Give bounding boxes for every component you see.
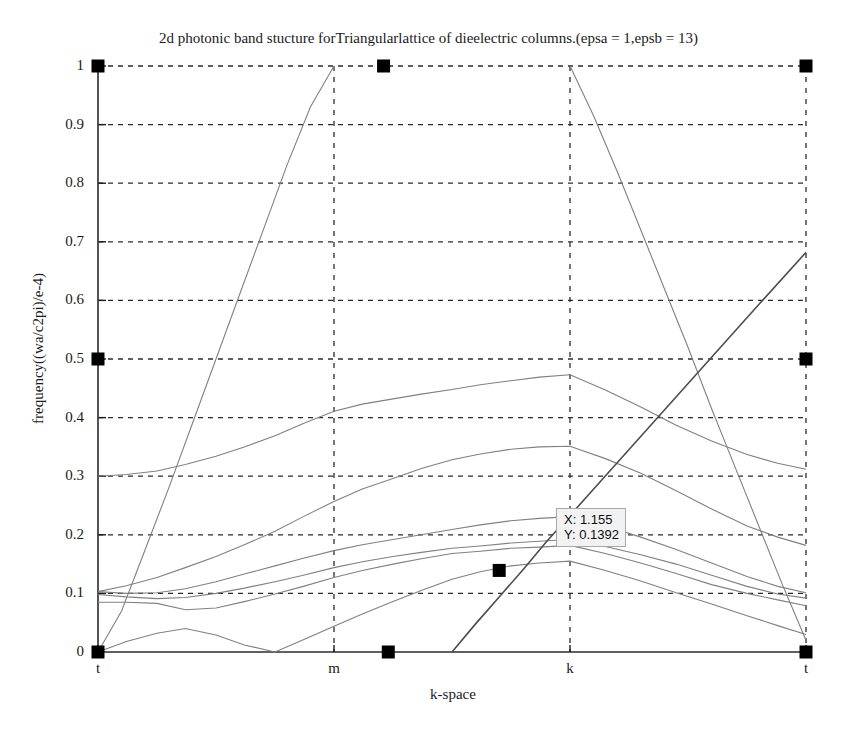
- data-point-marker[interactable]: [800, 353, 813, 366]
- y-tick-label: 0.7: [24, 234, 84, 248]
- y-tick-label: 0.5: [24, 351, 84, 365]
- data-point-marker[interactable]: [382, 646, 395, 659]
- figure-canvas: 2d photonic band stucture forTriangularl…: [0, 0, 857, 734]
- x-axis-label: k-space: [98, 686, 808, 703]
- y-tick-label: 0.3: [24, 468, 84, 482]
- band-structure-plot: [0, 0, 857, 734]
- band-curve: [452, 252, 806, 652]
- y-tick-label: 0: [24, 644, 84, 658]
- data-point-marker[interactable]: [377, 60, 390, 73]
- x-tick-label: t: [786, 660, 826, 677]
- data-point-marker[interactable]: [92, 646, 105, 659]
- y-tick-label: 0.9: [24, 117, 84, 131]
- band-curve: [98, 539, 806, 598]
- y-tick-label: 0.1: [24, 585, 84, 599]
- data-point-marker[interactable]: [800, 646, 813, 659]
- y-tick-label: 0.8: [24, 175, 84, 189]
- x-tick-label: t: [78, 660, 118, 677]
- data-point-marker[interactable]: [800, 60, 813, 73]
- y-tick-label: 0.6: [24, 292, 84, 306]
- data-point-marker[interactable]: [92, 60, 105, 73]
- data-point-marker[interactable]: [493, 564, 506, 577]
- data-tip-callout[interactable]: X: 1.155 Y: 0.1392: [556, 508, 626, 547]
- data-point-marker[interactable]: [92, 353, 105, 366]
- y-tick-label: 1: [24, 58, 84, 72]
- x-tick-label: k: [550, 660, 590, 677]
- data-tip-y: Y: 0.1392: [564, 527, 619, 542]
- y-tick-label: 0.2: [24, 527, 84, 541]
- data-tip-x: X: 1.155: [564, 512, 619, 527]
- y-tick-label: 0.4: [24, 410, 84, 424]
- x-tick-label: m: [314, 660, 354, 677]
- y-axis-label: frequency((wa/c2pi)/e-4): [30, 219, 47, 479]
- band-curve: [98, 561, 806, 652]
- band-curve: [98, 446, 806, 591]
- band-curve: [98, 517, 806, 594]
